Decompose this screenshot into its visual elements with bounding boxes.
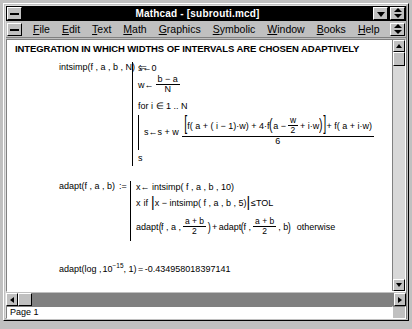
intsimp-sum-inner-den: 2 xyxy=(288,126,298,135)
document-menu-glyph xyxy=(10,29,19,31)
menu-item-books[interactable]: Books xyxy=(311,22,352,37)
result-call-arg1: log , xyxy=(85,264,102,274)
document-restore-down-glyph xyxy=(394,30,402,34)
minimize-icon[interactable] xyxy=(373,7,388,20)
worksheet-heading: INTEGRATION IN WHICH WIDTHS OF INTERVALS… xyxy=(15,43,359,54)
adapt-args: f , a , b xyxy=(85,181,113,191)
intsimp-program-block: s←0 w←b − aN for i ∈ 1 .. N s←s + w[f( a… xyxy=(132,62,376,166)
menu-item-edit-rest: dit xyxy=(69,23,80,35)
status-page-number: Page 1 xyxy=(6,306,393,319)
scroll-right-arrow-icon[interactable] xyxy=(394,293,406,306)
restore-up-glyph xyxy=(394,8,402,12)
intsimp-w-fraction: b − aN xyxy=(156,75,180,95)
adapt-line-x-assign: x← intsimp( f , a , b , 10) xyxy=(136,181,335,193)
result-call-name: adapt xyxy=(59,264,82,274)
window-menu-glyph xyxy=(10,13,19,15)
worksheet-page[interactable]: INTEGRATION IN WHICH WIDTHS OF INTERVALS… xyxy=(7,40,392,291)
mathcad-application-window: Mathcad - [subrouti.mcd] File Edit Text … xyxy=(0,0,412,329)
intsimp-sum-denominator: 6 xyxy=(182,137,374,146)
menu-item-books-rest: ooks xyxy=(324,23,346,35)
minimize-glyph xyxy=(377,12,385,17)
intsimp-sum-fraction: [f( a + ( i − 1)·w) + 4·f(a −w2+ i·w)]+ … xyxy=(182,117,374,146)
adapt-cond-if: if xyxy=(144,198,149,208)
region-evaluation-result[interactable]: adapt(log ,10−15, 1)=-0.434958018397141 xyxy=(59,264,230,274)
adapt-line-condition: xif|x − intsimp( f , a , b , 5)|≤TOL xyxy=(136,193,335,214)
menu-item-text-rest: ext xyxy=(97,23,111,35)
result-value: -0.434958018397141 xyxy=(145,264,231,274)
window-menu-icon[interactable] xyxy=(7,7,22,20)
document-restore-up-glyph xyxy=(394,24,402,28)
intsimp-line-sum: s←s + w[f( a + ( i − 1)·w) + 4·f(a −w2+ … xyxy=(138,115,376,150)
document-menu-icon[interactable] xyxy=(7,23,22,36)
adapt-rec2-frac-den: 2 xyxy=(253,227,276,236)
intsimp-line-init: s←0 xyxy=(138,62,376,74)
menu-item-edit[interactable]: Edit xyxy=(56,22,86,37)
adapt-program-block: x← intsimp( f , a , b , 10) xif|x − ints… xyxy=(130,181,335,241)
restore-down-glyph xyxy=(394,14,402,18)
menu-item-graphics[interactable]: Graphics xyxy=(153,22,207,37)
intsimp-line-w: w←b − aN xyxy=(138,74,376,97)
adapt-line-recursive: adapt(f , a ,a + b2)+adapt(f ,a + b2, b)… xyxy=(136,214,335,241)
adapt-rec-name1: adapt xyxy=(136,222,159,232)
adapt-rec-args1-lhs: f , a , xyxy=(161,222,181,232)
scroll-up-glyph xyxy=(396,44,402,48)
menu-item-window[interactable]: Window xyxy=(261,22,310,37)
intsimp-sum-lhs: s←s + w xyxy=(144,127,179,137)
intsimp-line-return: s xyxy=(138,150,376,166)
region-adapt-definition[interactable]: adapt(f , a , b) := xyxy=(59,181,128,191)
menu-item-math-rest: ath xyxy=(132,23,147,35)
scroll-left-arrow-icon[interactable] xyxy=(6,293,18,306)
vertical-scroll-thumb[interactable] xyxy=(393,52,405,66)
adapt-cond-value: x xyxy=(136,198,141,208)
result-equals: = xyxy=(138,264,143,274)
adapt-args-paren-close: ) xyxy=(112,181,115,191)
intsimp-sum-inner-lhs: a − xyxy=(273,121,286,131)
intsimp-loop-body-block: s←s + w[f( a + ( i − 1)·w) + 4·f(a −w2+ … xyxy=(138,115,376,150)
menu-bar: File Edit Text Math Graphics Symbolic Wi… xyxy=(6,22,406,38)
result-call-arg2-base: 10 xyxy=(103,264,113,274)
intsimp-w-lhs: w← xyxy=(138,80,154,90)
horizontal-scrollbar[interactable] xyxy=(6,293,406,306)
adapt-rec2-fraction: a + b2 xyxy=(253,217,276,236)
menu-item-math[interactable]: Math xyxy=(117,22,152,37)
intsimp-w-denominator: N xyxy=(156,85,180,94)
intsimp-line-for: for i ∈ 1 .. N xyxy=(138,98,376,115)
adapt-define-op: := xyxy=(119,181,127,191)
vertical-scrollbar[interactable] xyxy=(392,40,405,291)
scroll-up-arrow-icon[interactable] xyxy=(393,40,405,52)
region-adapt-body[interactable]: x← intsimp( f , a , b , 10) xif|x − ints… xyxy=(130,181,335,241)
intsimp-sum-numerator: [f( a + ( i − 1)·w) + 4·f(a −w2+ i·w)]+ … xyxy=(182,117,374,137)
scroll-right-glyph xyxy=(398,297,402,303)
adapt-rec-otherwise: otherwise xyxy=(297,222,336,232)
scroll-down-glyph xyxy=(396,283,402,287)
main-window-frame: Mathcad - [subrouti.mcd] File Edit Text … xyxy=(3,3,409,321)
adapt-rec1-frac-den: 2 xyxy=(183,227,206,236)
intsimp-name: intsimp xyxy=(59,62,88,72)
intsimp-sum-num-part1: f( a + ( i − 1)·w) + 4·f xyxy=(187,121,269,131)
scroll-down-arrow-icon[interactable] xyxy=(393,279,405,291)
region-intsimp-body[interactable]: s←0 w←b − aN for i ∈ 1 .. N s←s + w[f( a… xyxy=(132,62,376,166)
status-bar: auto Page 1 xyxy=(6,306,406,319)
document-restore-icon[interactable] xyxy=(390,23,405,36)
adapt-cond-expr: x − intsimp( f , a , b , 5) xyxy=(155,198,247,208)
adapt-rec-name2: adapt xyxy=(219,222,242,232)
menu-item-file-rest: ile xyxy=(39,23,50,35)
menu-item-symbolic[interactable]: Symbolic xyxy=(207,22,262,37)
menu-item-text[interactable]: Text xyxy=(86,22,117,37)
menu-item-help[interactable]: Help xyxy=(352,22,386,37)
intsimp-sum-inner-fraction: w2 xyxy=(288,116,298,135)
adapt-rec-args2-lhs: f , xyxy=(244,222,252,232)
title-bar: Mathcad - [subrouti.mcd] xyxy=(6,6,406,21)
result-call-arg3: , 1 xyxy=(124,264,134,274)
menu-bar-right-controls xyxy=(389,22,406,37)
adapt-name: adapt xyxy=(59,181,82,191)
restore-icon[interactable] xyxy=(390,7,405,20)
scroll-left-glyph xyxy=(10,297,14,303)
window-title: Mathcad - [subrouti.mcd] xyxy=(23,6,372,21)
document-area: INTEGRATION IN WHICH WIDTHS OF INTERVALS… xyxy=(6,39,406,292)
horizontal-scroll-thumb[interactable] xyxy=(18,293,32,306)
menu-item-file[interactable]: File xyxy=(27,22,56,37)
adapt-cond-compare: ≤TOL xyxy=(251,198,273,208)
intsimp-sum-num-part2: + f( a + i·w) xyxy=(326,121,372,131)
menu-item-help-rest: elp xyxy=(365,23,379,35)
